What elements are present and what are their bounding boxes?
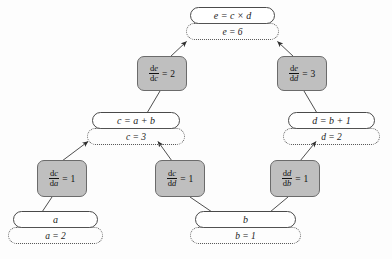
node-c-value: c = 3 [126, 132, 146, 142]
node-e-expression-box: e = c × d [190, 7, 275, 24]
deriv-de-dd-value: 3 [311, 69, 316, 79]
node-e-value-box: e = 6 [186, 23, 279, 40]
node-c-expression-box: c = a + b [92, 112, 180, 129]
node-a-expression-box: a [13, 211, 98, 228]
deriv-de-dc-formula: de dc = 2 [149, 64, 175, 82]
deriv-dd-db-formula: dd db = 1 [282, 169, 309, 187]
node-a-value-box: a = 2 [8, 227, 103, 244]
edge-b-to-dddb [270, 197, 288, 212]
deriv-dc-dd-fraction: dc dd [167, 169, 178, 187]
node-d-value: d = 2 [321, 132, 342, 142]
deriv-dc-da-formula: dc da = 1 [49, 169, 76, 187]
edge-dcda-to-c [62, 142, 88, 162]
edge-c-to-dedc [147, 91, 160, 113]
node-c-expression: c = a + b [117, 116, 155, 126]
deriv-dd-db-equals: = [295, 174, 300, 184]
node-d-expression-box: d = b + 1 [288, 112, 375, 129]
node-c: c = a + b c = 3 [87, 112, 185, 145]
node-b: b b = 1 [190, 211, 301, 244]
node-b-expression-box: b [195, 211, 296, 228]
node-b-value: b = 1 [235, 231, 256, 241]
edge-d-to-dedd [304, 91, 317, 113]
deriv-de-dc-fraction: de dc [149, 64, 159, 82]
deriv-de-dd-equals: = [302, 69, 307, 79]
deriv-dc-dd-equals: = [180, 174, 185, 184]
deriv-de-dc-equals: = [162, 69, 167, 79]
deriv-node-dc-dd: dc dd = 1 [155, 160, 205, 197]
node-a: a a = 2 [8, 211, 103, 244]
edge-a-to-dcda [42, 197, 52, 212]
deriv-de-dd-denominator: dd [289, 74, 300, 83]
edge-b-to-dcdd [190, 197, 212, 212]
node-b-expression: b [243, 215, 248, 225]
deriv-node-de-dd: de dd = 3 [277, 56, 327, 91]
deriv-dc-da-denominator: da [49, 179, 60, 188]
node-e-value: e = 6 [222, 27, 242, 37]
node-a-value: a = 2 [45, 231, 66, 241]
deriv-node-de-dc: de dc = 2 [137, 56, 187, 91]
node-d-value-box: d = 2 [283, 128, 380, 145]
node-d-expression: d = b + 1 [312, 116, 351, 126]
deriv-dc-dd-denominator: dd [167, 179, 178, 188]
node-e: e = c × d e = 6 [186, 7, 279, 40]
deriv-dd-db-value: 1 [304, 174, 309, 184]
deriv-dc-dd-value: 1 [189, 174, 194, 184]
node-c-value-box: c = 3 [87, 128, 185, 145]
deriv-dd-db-denominator: db [282, 179, 293, 188]
node-d: d = b + 1 d = 2 [283, 112, 380, 145]
deriv-de-dc-value: 2 [170, 69, 175, 79]
deriv-dc-da-value: 1 [71, 174, 76, 184]
computational-graph-diagram: e = c × d e = 6 de dc = 2 de dd = 3 [0, 0, 392, 259]
deriv-node-dd-db: dd db = 1 [270, 160, 320, 197]
deriv-dd-db-fraction: dd db [282, 169, 293, 187]
deriv-de-dc-denominator: dc [149, 74, 159, 83]
deriv-de-dd-fraction: de dd [289, 64, 300, 82]
edge-dedc-to-e [170, 42, 187, 58]
deriv-dc-da-fraction: dc da [49, 169, 60, 187]
node-e-expression: e = c × d [214, 11, 251, 21]
deriv-dc-da-equals: = [62, 174, 67, 184]
node-a-expression: a [53, 215, 58, 225]
deriv-dc-dd-formula: dc dd = 1 [167, 169, 194, 187]
deriv-node-dc-da: dc da = 1 [37, 160, 87, 197]
node-b-value-box: b = 1 [190, 227, 301, 244]
edge-dedd-to-e [278, 42, 295, 58]
deriv-de-dd-formula: de dd = 3 [289, 64, 316, 82]
